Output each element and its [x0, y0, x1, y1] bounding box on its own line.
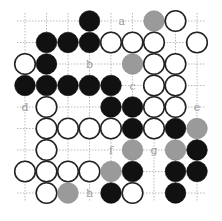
stone-white — [122, 32, 143, 53]
stone-white — [79, 118, 100, 139]
point-label-b: b — [86, 58, 93, 71]
stone-white — [15, 54, 36, 75]
stone-white — [144, 54, 165, 75]
stone-black — [101, 75, 122, 96]
stone-white — [144, 32, 165, 53]
stone-white — [101, 32, 122, 53]
stone-black — [36, 75, 57, 96]
stone-black — [79, 11, 100, 32]
stone-white — [36, 140, 57, 161]
point-label-c: c — [129, 80, 135, 93]
stone-black — [165, 161, 186, 182]
stone-white — [58, 118, 79, 139]
stone-white — [36, 183, 57, 204]
stone-gray — [122, 140, 143, 161]
stone-white — [122, 183, 143, 204]
stone-black — [187, 161, 208, 182]
stone-white — [165, 75, 186, 96]
stone-black — [58, 32, 79, 53]
stone-white — [36, 97, 57, 118]
go-diagram: abcdefgh — [0, 0, 222, 221]
stone-black — [15, 75, 36, 96]
stone-gray — [122, 54, 143, 75]
stone-black — [187, 140, 208, 161]
stone-white — [58, 161, 79, 182]
stone-black — [36, 32, 57, 53]
point-label-f: f — [109, 144, 114, 157]
stone-white — [36, 161, 57, 182]
stone-white — [165, 97, 186, 118]
point-label-h: h — [86, 187, 93, 200]
stone-white — [144, 97, 165, 118]
stone-black — [101, 97, 122, 118]
stone-black — [36, 54, 57, 75]
stone-gray — [144, 11, 165, 32]
stone-white — [79, 161, 100, 182]
point-label-e: e — [194, 101, 201, 114]
stone-black — [79, 32, 100, 53]
stone-gray — [187, 118, 208, 139]
stone-white — [36, 118, 57, 139]
stone-black — [165, 118, 186, 139]
point-label-a: a — [118, 15, 125, 28]
go-board: abcdefgh — [0, 0, 222, 221]
stone-black — [165, 183, 186, 204]
point-label-d: d — [21, 101, 28, 114]
stone-white — [144, 118, 165, 139]
stone-white — [165, 11, 186, 32]
stone-black — [122, 118, 143, 139]
stone-white — [165, 54, 186, 75]
stone-black — [101, 183, 122, 204]
stone-gray — [165, 140, 186, 161]
stone-white — [101, 118, 122, 139]
stone-black — [122, 97, 143, 118]
stone-gray — [58, 183, 79, 204]
stone-black — [58, 75, 79, 96]
stone-white — [144, 75, 165, 96]
stone-gray — [101, 161, 122, 182]
stone-black — [122, 161, 143, 182]
stone-white — [187, 32, 208, 53]
point-label-g: g — [150, 144, 157, 157]
stone-black — [79, 75, 100, 96]
stone-white — [15, 161, 36, 182]
